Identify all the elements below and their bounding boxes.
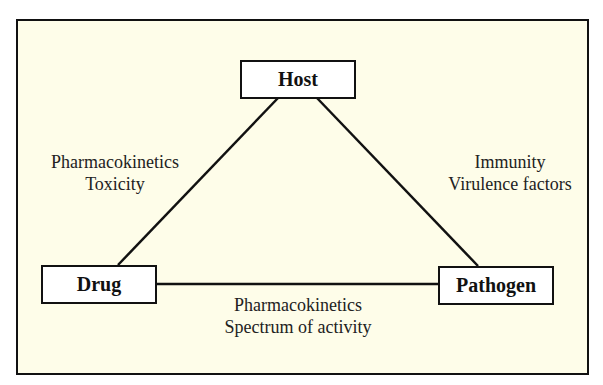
node-pathogen-label: Pathogen xyxy=(456,274,536,297)
edge-label-drug-pathogen: Pharmacokinetics Spectrum of activity xyxy=(225,294,372,338)
edge-label-host-drug-line1: Pharmacokinetics xyxy=(51,151,179,173)
node-host-label: Host xyxy=(278,68,318,91)
node-drug: Drug xyxy=(41,265,157,304)
edge-label-host-pathogen: Immunity Virulence factors xyxy=(448,151,571,195)
node-pathogen: Pathogen xyxy=(438,266,554,305)
edge-label-drug-pathogen-line2: Spectrum of activity xyxy=(225,316,372,338)
node-host: Host xyxy=(240,60,356,99)
node-drug-label: Drug xyxy=(77,273,121,296)
edge-label-host-pathogen-line2: Virulence factors xyxy=(448,173,571,195)
edge-label-host-drug-line2: Toxicity xyxy=(51,173,179,195)
edge-label-drug-pathogen-line1: Pharmacokinetics xyxy=(225,294,372,316)
edge-label-host-pathogen-line1: Immunity xyxy=(448,151,571,173)
edge-label-host-drug: Pharmacokinetics Toxicity xyxy=(51,151,179,195)
